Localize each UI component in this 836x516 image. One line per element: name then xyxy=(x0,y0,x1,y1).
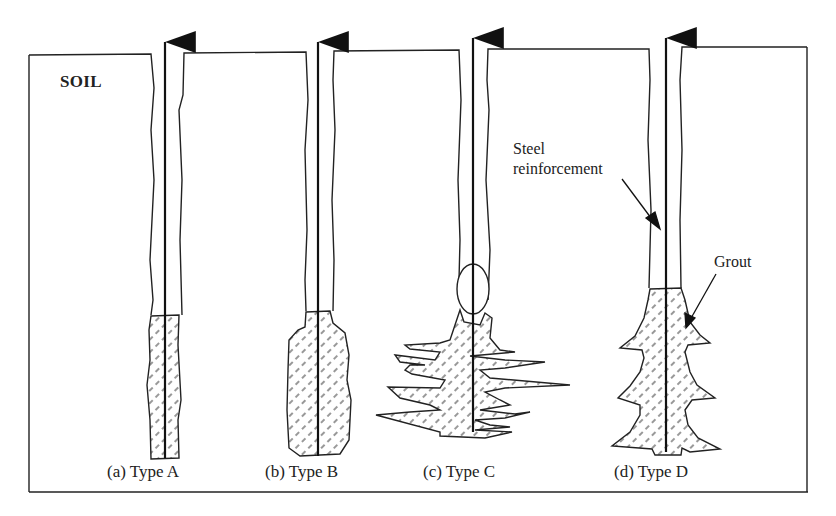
steel-label-line-2: reinforcement xyxy=(513,159,603,179)
soil-label: SOIL xyxy=(60,72,102,92)
grout-leader-arrow xyxy=(690,274,716,320)
grout-label: Grout xyxy=(714,252,751,272)
diagram-drawing xyxy=(0,0,836,516)
caption-type-a: (a) Type A xyxy=(107,462,179,482)
caption-type-c: (c) Type C xyxy=(423,462,495,482)
caption-type-b: (b) Type B xyxy=(265,462,338,482)
steel-label-line-1: Steel xyxy=(513,139,603,159)
soil-nail-grout-diagram: SOIL Steel reinforcement Grout (a) Type … xyxy=(0,0,836,516)
caption-type-d: (d) Type D xyxy=(614,462,688,482)
steel-reinforcement-label: Steel reinforcement xyxy=(513,139,603,179)
